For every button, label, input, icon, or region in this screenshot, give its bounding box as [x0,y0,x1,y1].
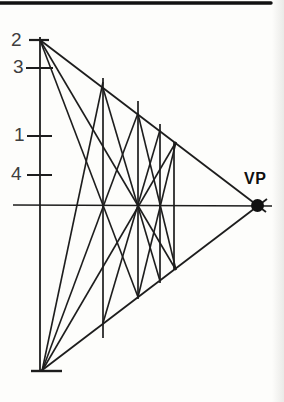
diagonal-post2-foot-up [138,142,176,297]
scale-label-1: 1 [14,125,25,144]
diagonal-bottom-through-node1 [42,113,138,371]
vanishing-point-dot [251,199,264,212]
diagonal-bottom-through-node2 [42,142,176,371]
vanishing-point-label: VP [244,171,266,187]
scale-label-3: 3 [13,57,24,76]
bottom-rail-to-vp [41,199,267,371]
scale-label-2: 2 [11,30,22,49]
scale-label-4: 4 [11,164,22,183]
diagonal-top-through-node1 [40,40,138,297]
perspective-construction-diagram [0,0,284,402]
book-page-scan: 2314 VP [0,0,284,402]
horizon-line [13,205,272,206]
top-rail-to-vp [40,40,266,212]
diagonal-top-through-node2 [40,40,176,270]
